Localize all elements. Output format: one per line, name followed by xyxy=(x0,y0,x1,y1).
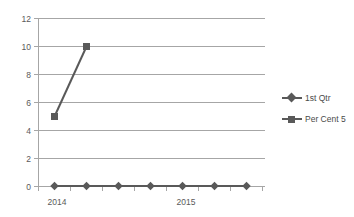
diamond-marker-icon xyxy=(114,182,122,190)
diamond-marker-icon xyxy=(82,182,90,190)
y-tick-label: 12 xyxy=(22,14,32,24)
series-per-cent-5 xyxy=(51,43,90,120)
diamond-marker-icon xyxy=(50,182,58,190)
chart-legend: 1st Qtr Per Cent 5 xyxy=(282,90,354,132)
diamond-marker-icon xyxy=(210,182,218,190)
y-tick-label: 2 xyxy=(26,154,31,164)
y-axis-labels: 12 10 8 6 4 2 0 xyxy=(22,14,32,192)
diamond-marker-icon xyxy=(178,182,186,190)
x-tick-label: 2015 xyxy=(177,197,196,207)
y-tick-label: 8 xyxy=(26,70,31,80)
legend-item-1st-qtr[interactable]: 1st Qtr xyxy=(282,90,354,106)
x-axis-labels: 2014 2015 xyxy=(48,197,196,207)
y-tick-label: 6 xyxy=(26,98,31,108)
series-line-per-cent-5 xyxy=(55,47,87,117)
square-marker-icon xyxy=(51,113,58,120)
x-tick-label: 2014 xyxy=(48,197,67,207)
diamond-marker-icon xyxy=(282,93,302,103)
legend-item-label: Per Cent 5 xyxy=(305,114,346,124)
square-marker-icon xyxy=(83,43,90,50)
line-chart: 12 10 8 6 4 2 0 2014 2015 xyxy=(0,0,354,217)
y-tick-label: 0 xyxy=(26,182,31,192)
legend-item-label: 1st Qtr xyxy=(305,93,331,103)
square-marker-icon xyxy=(282,114,302,124)
series-1st-qtr xyxy=(50,182,250,190)
legend-item-per-cent-5[interactable]: Per Cent 5 xyxy=(282,111,354,127)
y-axis-ticks xyxy=(34,19,38,187)
y-tick-label: 4 xyxy=(26,126,31,136)
y-tick-label: 10 xyxy=(22,42,32,52)
diamond-marker-icon xyxy=(146,182,154,190)
gridlines xyxy=(38,19,265,159)
diamond-marker-icon xyxy=(242,182,250,190)
